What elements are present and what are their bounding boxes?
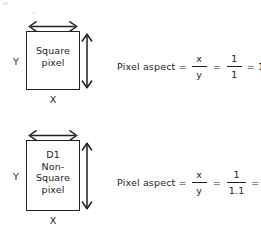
symbolic-fraction: x y (192, 54, 207, 79)
formula-lead-text: Pixel aspect = (117, 177, 187, 188)
box-label-line: Non- (27, 161, 79, 173)
box-label-line: D1 (27, 149, 79, 161)
fraction-numerator: x (194, 170, 204, 180)
scan-artifact (3, 2, 8, 5)
square-pixel-box-label: Square pixel (27, 45, 79, 68)
x-dimension-arrow (26, 17, 80, 28)
y-axis-label: Y (13, 57, 19, 67)
double-headed-vertical-arrow-icon (81, 32, 93, 90)
fraction-bar (192, 66, 207, 67)
fraction-bar (192, 182, 207, 183)
fraction-denominator: 1.1 (227, 186, 247, 196)
formula-result: = 1.0 (247, 61, 261, 72)
fraction-numerator: 1 (231, 170, 241, 180)
d1-non-square-pixel-box-label: D1 Non- Square pixel (27, 149, 79, 195)
box-label-line: Square (27, 172, 79, 184)
fraction-denominator: y (194, 186, 204, 196)
x-dimension-arrow (26, 126, 80, 137)
scan-artifact (31, 12, 35, 14)
fraction-bar (227, 182, 247, 183)
double-headed-vertical-arrow-icon (81, 141, 93, 211)
x-axis-label: X (26, 216, 80, 226)
y-axis-label: Y (13, 172, 19, 182)
square-pixel-box: Square pixel (26, 31, 80, 90)
box-label-line: pixel (27, 57, 79, 69)
square-pixel-formula: Pixel aspect = x y = 1 1 = 1.0 (117, 54, 261, 79)
formula-lead-text: Pixel aspect = (117, 61, 187, 72)
d1-non-square-pixel-box: D1 Non- Square pixel (26, 140, 80, 211)
x-axis-label: X (26, 95, 80, 105)
pixel-aspect-diagram-figure: Square pixel Y X Pixel aspect = x y = 1 (0, 0, 261, 232)
y-dimension-arrow (81, 32, 93, 90)
symbolic-fraction: x y (192, 170, 207, 195)
fraction-denominator: y (194, 70, 204, 80)
box-label-line: pixel (27, 184, 79, 196)
equals-sign: = (213, 61, 221, 72)
y-dimension-arrow (81, 141, 93, 211)
box-label-line: Square (27, 45, 79, 57)
fraction-numerator: 1 (229, 54, 239, 64)
formula-result: = 0.9 (251, 177, 261, 188)
fraction-bar (227, 66, 242, 67)
d1-non-square-pixel-formula: Pixel aspect = x y = 1 1.1 = 0.9 (117, 170, 261, 195)
numeric-fraction: 1 1.1 (227, 170, 247, 195)
fraction-denominator: 1 (229, 70, 239, 80)
fraction-numerator: x (194, 54, 204, 64)
equals-sign: = (213, 177, 221, 188)
numeric-fraction: 1 1 (227, 54, 242, 79)
